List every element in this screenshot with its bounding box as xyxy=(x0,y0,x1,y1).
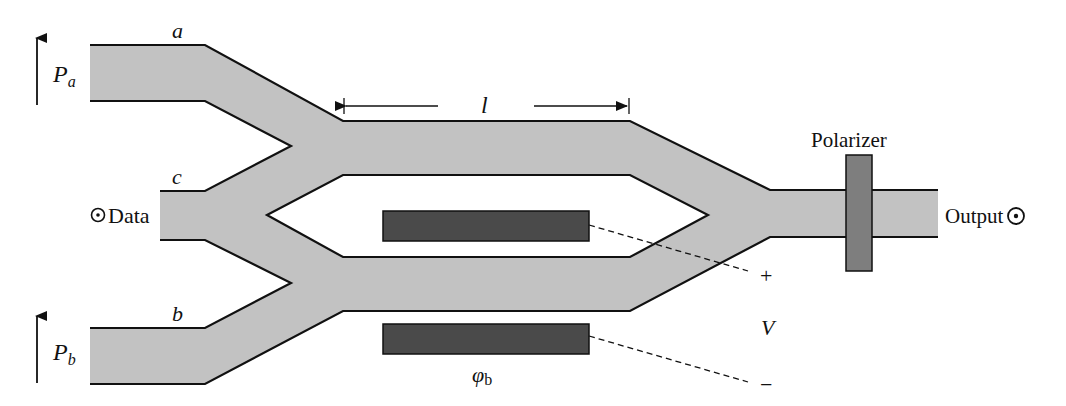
data-circled-dot-icon xyxy=(92,209,105,222)
power-a-label: Pa xyxy=(52,61,76,90)
polarizer-element xyxy=(846,155,872,271)
voltage-label: V xyxy=(761,315,777,340)
port-a-label: a xyxy=(172,18,183,43)
electrode-top xyxy=(383,211,589,241)
length-label: l xyxy=(481,92,488,118)
port-b-label: b xyxy=(172,301,183,326)
plus-terminal-label: + xyxy=(760,263,772,288)
polarizer-label: Polarizer xyxy=(811,128,887,152)
lead-minus xyxy=(589,336,748,382)
mzi-diagram: a c b Pa Pb Data l Polarizer Output + V … xyxy=(0,0,1066,406)
minus-terminal-label: − xyxy=(760,372,772,397)
port-c-label: c xyxy=(172,164,182,189)
electrode-bottom xyxy=(383,324,589,354)
phase-label: φb xyxy=(472,362,492,388)
power-b-label: Pb xyxy=(52,339,76,368)
output-label: Output xyxy=(945,204,1004,228)
output-circled-dot-icon xyxy=(1008,208,1024,224)
data-input-label: Data xyxy=(108,203,150,228)
